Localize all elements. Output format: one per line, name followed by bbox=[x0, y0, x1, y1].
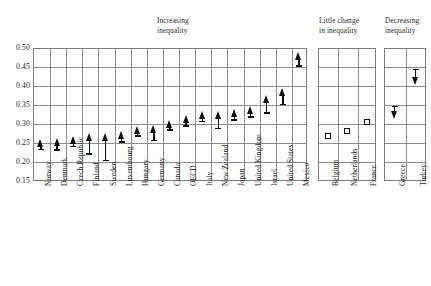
y-axis-tick-label: 0.25 bbox=[2, 139, 30, 147]
data-point-hungary bbox=[132, 0, 144, 286]
data-point-turkey bbox=[410, 0, 422, 286]
marker-arrowhead-up bbox=[231, 109, 237, 117]
marker-tail-cap bbox=[392, 106, 398, 107]
marker-arrowhead-down bbox=[391, 111, 397, 119]
inequality-chart: 0.500.450.400.350.300.250.200.15Increasi… bbox=[0, 0, 431, 286]
data-point-united-states bbox=[277, 0, 289, 286]
y-axis-tick-label: 0.30 bbox=[2, 120, 30, 128]
marker-arrowhead-up bbox=[166, 120, 172, 128]
marker-arrowhead-up bbox=[183, 115, 189, 123]
marker-tail-cap bbox=[54, 149, 60, 150]
y-axis-tick-label: 0.40 bbox=[2, 82, 30, 90]
data-point-canada bbox=[164, 0, 176, 286]
marker-square bbox=[364, 119, 370, 125]
data-point-netherlands bbox=[341, 0, 353, 286]
gridline-vertical bbox=[406, 49, 407, 180]
marker-arrowhead-up bbox=[37, 139, 43, 147]
marker-arrowhead-up bbox=[295, 52, 301, 60]
data-point-japan bbox=[228, 0, 240, 286]
marker-tail-cap bbox=[86, 153, 92, 154]
data-point-norway bbox=[35, 0, 47, 286]
marker-arrowhead-up bbox=[54, 138, 60, 146]
y-axis-tick-label: 0.20 bbox=[2, 158, 30, 166]
marker-arrowhead-up bbox=[150, 125, 156, 133]
marker-tail-cap bbox=[413, 69, 419, 70]
data-point-oecd bbox=[180, 0, 192, 286]
marker-tail-cap bbox=[248, 116, 254, 117]
marker-tail-cap bbox=[119, 141, 125, 142]
marker-tail-cap bbox=[151, 140, 157, 141]
data-point-new-zealand bbox=[212, 0, 224, 286]
data-point-italy bbox=[196, 0, 208, 286]
x-axis-label-turkey: Turkey bbox=[419, 164, 428, 186]
data-point-denmark bbox=[51, 0, 63, 286]
marker-tail-cap bbox=[280, 104, 286, 105]
marker-arrowhead-up bbox=[70, 136, 76, 144]
marker-arrowhead-up bbox=[86, 133, 92, 141]
marker-arrowhead-up bbox=[263, 95, 269, 103]
x-axis-label-mexico: Mexico bbox=[302, 162, 311, 186]
x-axis-label-netherlands: Netherlands bbox=[350, 149, 359, 186]
marker-arrowhead-up bbox=[118, 131, 124, 139]
marker-tail-cap bbox=[103, 160, 109, 161]
x-axis-label-greece: Greece bbox=[398, 164, 407, 186]
data-point-finland bbox=[83, 0, 95, 286]
marker-arrowhead-up bbox=[134, 126, 140, 134]
marker-square bbox=[344, 128, 350, 134]
data-point-sweden bbox=[100, 0, 112, 286]
marker-tail-cap bbox=[167, 129, 173, 130]
x-axis-label-belgium: Belgium bbox=[331, 159, 340, 186]
marker-arrowhead-up bbox=[279, 88, 285, 96]
data-point-luxembourg bbox=[116, 0, 128, 286]
data-point-belgium bbox=[322, 0, 334, 286]
data-point-france bbox=[360, 0, 372, 286]
marker-arrowhead-up bbox=[102, 133, 108, 141]
marker-square bbox=[325, 133, 331, 139]
marker-tail-cap bbox=[38, 149, 44, 150]
marker-tail-cap bbox=[215, 128, 221, 129]
data-point-israel bbox=[261, 0, 273, 286]
marker-tail-cap bbox=[135, 135, 141, 136]
marker-tail-cap bbox=[231, 119, 237, 120]
marker-tail-cap bbox=[264, 112, 270, 113]
marker-arrowhead-up bbox=[247, 106, 253, 114]
data-point-mexico bbox=[293, 0, 305, 286]
y-axis-tick-label: 0.35 bbox=[2, 101, 30, 109]
data-point-greece bbox=[389, 0, 401, 286]
marker-arrowhead-down bbox=[412, 77, 418, 85]
data-point-germany bbox=[148, 0, 160, 286]
marker-tail-cap bbox=[183, 125, 189, 126]
marker-arrowhead-up bbox=[215, 111, 221, 119]
y-axis-tick-label: 0.45 bbox=[2, 63, 30, 71]
marker-tail bbox=[105, 138, 106, 161]
marker-tail-cap bbox=[199, 121, 205, 122]
marker-tail-cap bbox=[296, 65, 302, 66]
marker-arrowhead-up bbox=[199, 111, 205, 119]
y-axis-tick-label: 0.15 bbox=[2, 177, 30, 185]
x-axis-label-france: France bbox=[369, 165, 378, 186]
y-axis-tick-label: 0.50 bbox=[2, 44, 30, 52]
